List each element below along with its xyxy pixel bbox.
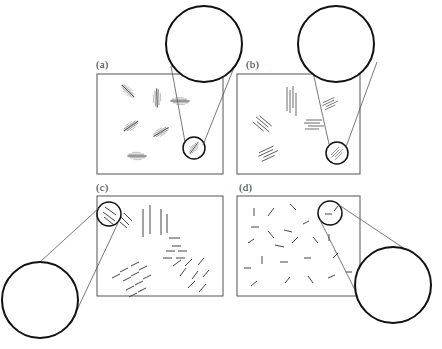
panel-c-box	[97, 196, 223, 296]
diagram-canvas	[0, 0, 442, 349]
panel-c	[2, 196, 223, 338]
panel-c-big-magnifier-circle	[2, 262, 78, 338]
panel-a-big-magnifier-circle	[166, 6, 242, 82]
panel-a-box	[97, 74, 223, 174]
panel-b-big-magnifier-circle	[298, 6, 374, 82]
panel-a	[97, 6, 242, 174]
panel-d-big-magnifier-circle	[355, 247, 431, 323]
panel-b	[237, 6, 377, 174]
panel-c-small-magnifier-circle	[97, 202, 121, 226]
panel-d	[237, 196, 431, 323]
panel-d-small-magnifier-circle	[318, 201, 342, 225]
figure: (a) (b) (c) (d)	[0, 0, 442, 349]
panel-b-small-magnifier-circle	[326, 142, 348, 164]
